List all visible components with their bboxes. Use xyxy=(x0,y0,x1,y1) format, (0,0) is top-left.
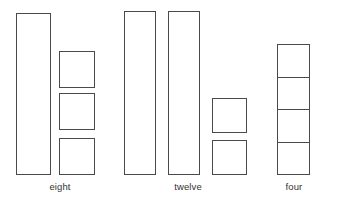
group-eight-label: eight xyxy=(20,181,100,193)
group-eight-unit-2 xyxy=(59,93,95,130)
base-ten-blocks-diagram: eight twelve four xyxy=(0,0,337,206)
group-twelve-rod-2 xyxy=(168,11,200,175)
group-twelve-label: twelve xyxy=(148,181,228,193)
group-four-stack-cell-2 xyxy=(278,78,309,111)
group-four-stack-cell-1 xyxy=(278,45,309,78)
group-twelve-rod-1 xyxy=(124,11,156,175)
group-twelve-unit-2 xyxy=(212,140,247,175)
group-four-unit-stack xyxy=(277,44,310,175)
group-four-stack-cell-3 xyxy=(278,110,309,143)
group-eight-rod-1 xyxy=(16,13,51,175)
group-twelve-unit-1 xyxy=(212,98,247,133)
group-four-label: four xyxy=(254,181,334,193)
group-eight-unit-1 xyxy=(59,51,95,88)
group-four-stack-cell-4 xyxy=(278,143,309,175)
group-eight-unit-3 xyxy=(59,138,95,175)
